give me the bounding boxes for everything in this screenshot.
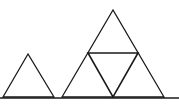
triangles-diagram bbox=[0, 0, 179, 108]
small-triangle bbox=[3, 54, 54, 97]
medial-triangle bbox=[88, 53, 138, 97]
